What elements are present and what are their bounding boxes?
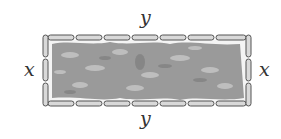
fence-left (43, 35, 48, 106)
fence-right (246, 35, 251, 106)
dimension-label-bottom: y (140, 109, 151, 128)
fence-top (48, 35, 246, 40)
dimension-label-right: x (259, 60, 270, 79)
fence-bottom (48, 101, 246, 106)
dimension-label-left: x (24, 60, 35, 79)
foliage-area (48, 40, 248, 102)
dimension-label-top: y (140, 8, 151, 27)
